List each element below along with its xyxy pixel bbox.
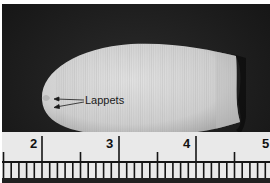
ruler-label-5: 5 <box>262 136 269 151</box>
ruler-label-2: 2 <box>30 136 37 151</box>
specimen-body <box>36 42 246 138</box>
ruler-ticks <box>2 132 270 183</box>
ruler-label-4: 4 <box>183 136 190 151</box>
ruler-label-3: 3 <box>106 136 113 151</box>
measurement-ruler: 2 3 4 5 <box>2 132 270 183</box>
photo-figure: Lappets 2 3 4 5 <box>0 0 270 183</box>
specimen-photo: Lappets 2 3 4 5 <box>2 4 270 183</box>
lappets-label: Lappets <box>85 94 124 106</box>
